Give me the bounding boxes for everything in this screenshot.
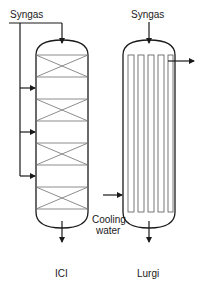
cooling-water-label-line1: Cooling <box>92 214 126 225</box>
tube-3 <box>148 55 154 212</box>
reactor-diagram <box>0 0 203 283</box>
lurgi-name-label: Lurgi <box>137 268 159 279</box>
cooling-water-label-line2: water <box>96 225 120 236</box>
tube-5 <box>168 55 173 212</box>
catalyst-bed-1 <box>36 55 88 77</box>
tube-1 <box>128 55 134 212</box>
catalyst-bed-4 <box>36 187 88 209</box>
ici-syngas-label: Syngas <box>10 9 43 20</box>
tube-2 <box>138 55 144 212</box>
tube-4 <box>158 55 164 212</box>
ici-reactor <box>36 40 88 228</box>
lurgi-syngas-label: Syngas <box>131 9 164 20</box>
lurgi-reactor <box>123 40 175 228</box>
catalyst-bed-3 <box>36 143 88 165</box>
lurgi-tubes <box>128 55 173 212</box>
ici-catalyst-beds <box>36 55 88 209</box>
ici-name-label: ICI <box>55 268 68 279</box>
catalyst-bed-2 <box>36 99 88 121</box>
